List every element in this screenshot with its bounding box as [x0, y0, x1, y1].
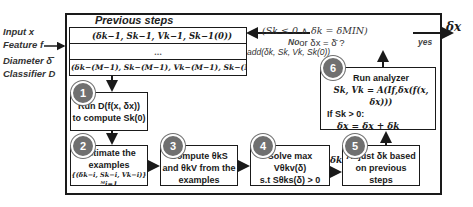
- yes-label: yes: [418, 37, 432, 47]
- step-6-line2: Sk, Vk = A(If,δx(f(x, δx))): [327, 84, 435, 108]
- decision-condition: (Sk ≤ 0 ∧ δk = δMIN) or δx = δ̄ ?: [262, 25, 368, 49]
- decision-line1: (Sk ≤ 0 ∧ δk = δMIN): [262, 25, 368, 37]
- inputs-panel: Input x Feature f Diameter δ̄ Classifier…: [3, 26, 63, 80]
- feature-label: Feature f: [3, 39, 63, 52]
- step-6-line3: If Sk > 0:: [327, 108, 364, 120]
- no-label: No: [288, 37, 299, 47]
- step-6-line1: Run analyzer: [353, 72, 409, 84]
- step-5-line2: on previous steps: [343, 162, 419, 186]
- step-1-line2: to compute Sk(0): [72, 112, 145, 124]
- step-3-line3: examples: [178, 174, 219, 186]
- table-row: …: [70, 44, 246, 60]
- diameter-label: Diameter δ̄: [3, 55, 63, 68]
- table-row: (δk−(M−1), Sk−(M−1), Vk−(M−1), Sk−(M−1)(…: [70, 60, 246, 75]
- step-1-badge: 1: [71, 81, 95, 105]
- step-4-edge-label: δk: [330, 155, 342, 165]
- step-5-badge: 5: [343, 134, 367, 158]
- output-label: δx: [446, 20, 461, 34]
- step-4-badge: 4: [251, 134, 275, 158]
- step-6-badge: 6: [321, 56, 345, 80]
- step-2-line3: {(δk−i, Sk−i, Vk−i)}ᴹi=1: [71, 171, 147, 189]
- previous-steps-title: Previous steps: [95, 14, 173, 26]
- previous-steps-table: (δk−1, Sk−1, Vk−1, Sk−1(0)) … (δk−(M−1),…: [69, 27, 247, 76]
- input-label: Input x: [3, 26, 63, 39]
- step-3-badge: 3: [161, 134, 185, 158]
- step-2-badge: 2: [71, 134, 95, 158]
- step-3-line2: and θkV from the: [163, 162, 236, 174]
- table-row: (δk−1, Sk−1, Vk−1, Sk−1(0)): [70, 28, 246, 44]
- step-6-line4: δx = δx + δk: [327, 120, 400, 132]
- step-4-line2: s.t Sθks(δ) > 0: [260, 174, 321, 186]
- add-label: add(δk, Sk, Vk, Sk(0)): [247, 47, 330, 57]
- classifier-label: Classifier D: [3, 68, 63, 81]
- step-2-line2: examples: [88, 159, 129, 171]
